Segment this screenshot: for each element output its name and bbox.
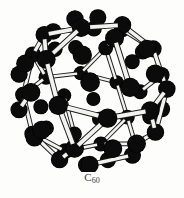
carbon-atom — [146, 65, 163, 82]
carbon-atom — [22, 84, 40, 102]
carbon-atom — [49, 96, 67, 114]
carbon-atom — [73, 46, 91, 64]
bond — [86, 25, 118, 27]
bond — [113, 112, 146, 118]
bond — [50, 74, 77, 77]
caption-element-symbol: C — [84, 171, 92, 183]
carbon-atom — [81, 73, 99, 91]
carbon-atom — [99, 109, 117, 127]
carbon-atom — [34, 100, 48, 114]
carbon-atom — [104, 140, 122, 158]
carbon-atom — [138, 40, 155, 57]
carbon-atom — [17, 55, 34, 72]
buckminsterfullerene-model — [0, 0, 184, 172]
figure-caption: C60 — [0, 170, 184, 188]
bonds-group — [10, 9, 175, 172]
carbon-atom — [121, 78, 139, 96]
carbon-atom — [90, 10, 106, 26]
caption-subscript: 60 — [92, 176, 100, 185]
carbon-atom — [33, 121, 50, 138]
c60-figure: C60 — [0, 0, 184, 198]
bond — [107, 51, 116, 78]
carbon-atom — [87, 93, 100, 106]
molecule-viewport — [0, 0, 184, 172]
carbon-atom — [128, 135, 145, 152]
